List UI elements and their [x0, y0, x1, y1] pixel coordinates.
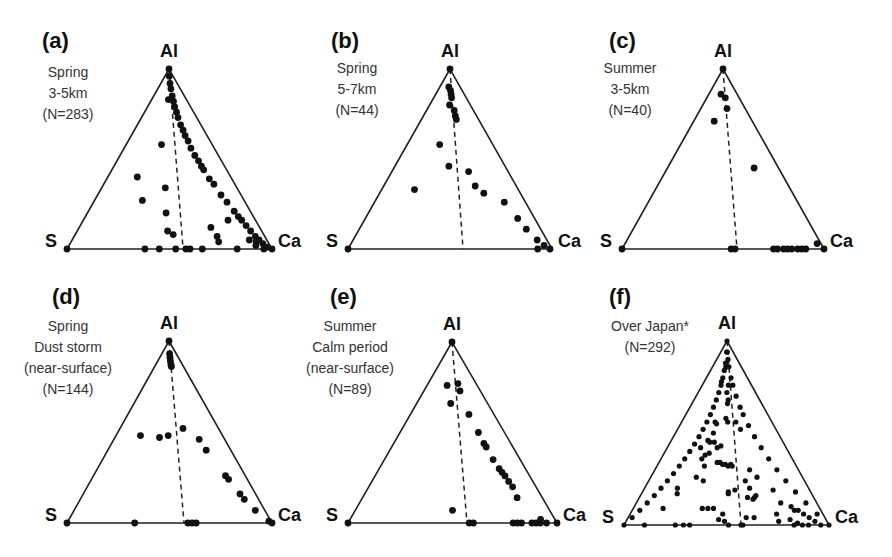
- data-point: [826, 522, 831, 527]
- data-point: [199, 246, 206, 253]
- data-point: [795, 521, 800, 526]
- data-point: [139, 197, 146, 204]
- data-point: [778, 500, 783, 505]
- data-point: [807, 515, 812, 520]
- data-point: [448, 94, 455, 101]
- data-point: [470, 520, 477, 527]
- data-point: [687, 449, 692, 454]
- data-point: [725, 419, 730, 424]
- data-point: [131, 520, 138, 527]
- data-point: [238, 217, 245, 224]
- data-point: [260, 246, 267, 253]
- panel-letter: (b): [331, 28, 359, 53]
- data-point: [164, 228, 171, 235]
- panel-description-line: 5-7km: [338, 81, 377, 97]
- data-point: [699, 456, 704, 461]
- data-point: [509, 483, 516, 490]
- panel-description-line: (near-surface): [24, 360, 112, 376]
- data-point: [682, 456, 687, 461]
- data-point: [752, 434, 757, 439]
- data-point: [472, 183, 479, 190]
- data-point: [788, 517, 793, 522]
- data-point: [774, 511, 779, 516]
- data-point: [658, 486, 663, 491]
- vertex-label-ca: Ca: [278, 505, 302, 525]
- data-point: [671, 471, 676, 476]
- data-point: [156, 246, 163, 253]
- panel-description-line: Spring: [48, 64, 88, 80]
- data-point: [447, 66, 454, 73]
- data-point: [134, 174, 141, 181]
- panel-description-line: Spring: [48, 318, 88, 334]
- data-point: [722, 519, 727, 524]
- data-point: [707, 451, 712, 456]
- data-point: [766, 456, 771, 461]
- data-point: [673, 522, 678, 527]
- data-point: [345, 246, 352, 253]
- ternary-panel-c: AlSCa(c)Summer3-5km(N=40): [600, 28, 854, 252]
- data-point: [64, 246, 71, 253]
- vertex-label-al: Al: [714, 41, 732, 61]
- data-point: [815, 511, 820, 516]
- data-point: [252, 507, 259, 514]
- data-point: [247, 228, 254, 235]
- data-point: [732, 487, 737, 492]
- data-point: [707, 440, 712, 445]
- data-point: [718, 443, 723, 448]
- data-point: [630, 515, 635, 520]
- panel-description-line: (N=89): [328, 381, 371, 397]
- data-point: [687, 522, 692, 527]
- data-point: [714, 421, 719, 426]
- data-point: [453, 116, 460, 123]
- data-point: [185, 138, 192, 145]
- data-point: [702, 464, 707, 469]
- data-point: [716, 390, 721, 395]
- data-point: [661, 506, 666, 511]
- data-point: [165, 432, 172, 439]
- data-point: [543, 520, 550, 527]
- data-point: [752, 515, 757, 520]
- data-point: [751, 165, 758, 172]
- panel-description-line: Spring: [337, 60, 377, 76]
- data-point: [170, 231, 177, 238]
- data-point: [725, 349, 730, 354]
- data-point: [724, 390, 729, 395]
- vertex-label-ca: Ca: [563, 505, 587, 525]
- data-point: [163, 210, 170, 217]
- data-point: [724, 364, 729, 369]
- data-point: [449, 507, 456, 514]
- data-point: [744, 515, 749, 520]
- data-point: [483, 444, 490, 451]
- vertex-label-al: Al: [443, 314, 461, 334]
- vertex-label-al: Al: [718, 313, 736, 333]
- data-point: [726, 522, 731, 527]
- data-point: [269, 520, 276, 527]
- vertex-label-s: S: [326, 505, 338, 525]
- data-point: [225, 217, 232, 224]
- data-point: [711, 118, 718, 125]
- data-point: [537, 520, 544, 527]
- ternary-panel-b: AlSCa(b)Spring5-7km(N=44): [326, 28, 582, 252]
- data-point: [724, 105, 731, 112]
- vertex-label-al: Al: [441, 41, 459, 61]
- vertex-label-ca: Ca: [278, 231, 302, 251]
- data-point: [712, 440, 717, 445]
- data-point: [675, 486, 680, 491]
- data-point: [246, 237, 253, 244]
- dashed-reference-line: [452, 342, 467, 523]
- data-point: [457, 388, 464, 395]
- panel-description-line: Over Japan*: [611, 318, 689, 334]
- data-point: [180, 425, 187, 432]
- data-point: [269, 246, 276, 253]
- panel-description-line: Dust storm: [34, 339, 102, 355]
- data-point: [652, 493, 657, 498]
- data-point: [732, 246, 739, 253]
- data-point: [740, 522, 745, 527]
- data-point: [231, 208, 238, 215]
- data-point: [738, 405, 743, 410]
- data-point: [812, 519, 817, 524]
- data-point: [156, 434, 163, 441]
- panel-description-line: (near-surface): [306, 360, 394, 376]
- data-point: [645, 500, 650, 505]
- data-point: [745, 495, 750, 500]
